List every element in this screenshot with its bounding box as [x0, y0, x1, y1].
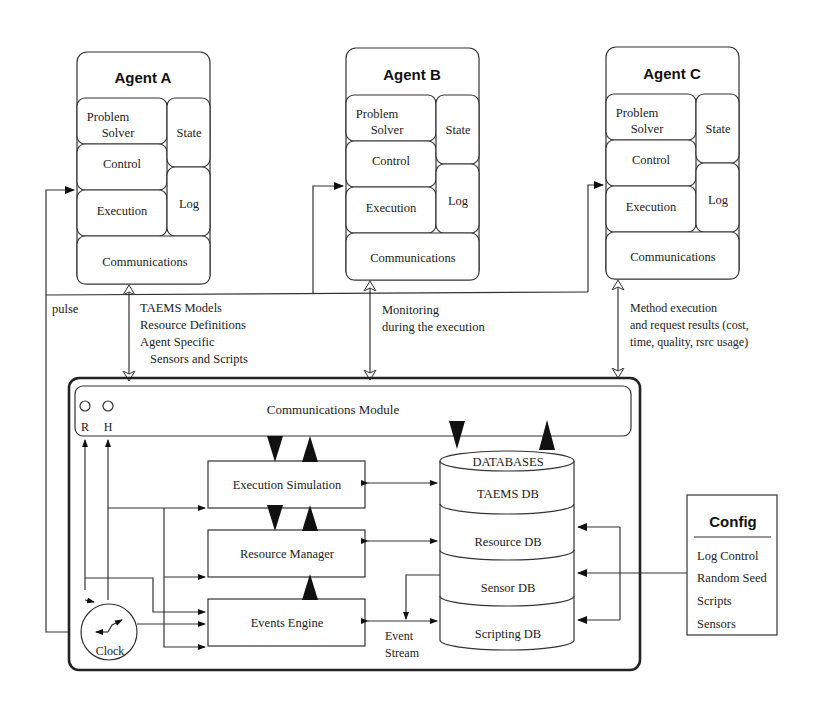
agent-c-control-label: Control [632, 153, 671, 167]
agent-c-problem-solver-label: Problem [616, 106, 659, 120]
agent-c-communications-label: Communications [630, 250, 716, 264]
agent-a-execution-label: Execution [97, 204, 148, 218]
sensor-event-stream-link [406, 575, 440, 619]
agent-c-title: Agent C [643, 65, 701, 82]
agent-a-problem-solver-label-2: Solver [102, 126, 135, 140]
agent-b-link-text: Monitoring during the execution [382, 303, 485, 334]
execution-simulation-label: Execution Simulation [233, 478, 342, 492]
databases-cylinder: DATABASES TAEMS DB Resource DB Sensor DB… [440, 451, 574, 650]
down-arrow-icon [267, 436, 283, 462]
communications-module-label: Communications Module [267, 402, 400, 417]
clock-label: Clock [96, 644, 125, 658]
r-label: R [81, 420, 89, 434]
databases-title: DATABASES [472, 455, 543, 469]
agent-b-communications-label: Communications [370, 251, 456, 265]
pulse-bus-line [46, 292, 588, 295]
pulse-line-agent-b [313, 186, 343, 293]
config-title: Config [709, 513, 756, 530]
agent-b-problem-solver-label: Problem [356, 107, 399, 121]
event-stream-label: Event Stream [385, 629, 420, 660]
agent-b-execution-label: Execution [366, 201, 417, 215]
agent-a-control-label: Control [103, 157, 142, 171]
agent-c-state-label: State [706, 122, 731, 136]
agent-a-link-text: TAEMS Models Resource Definitions Agent … [140, 301, 249, 366]
h-label: H [104, 420, 113, 434]
agent-a-communications-label: Communications [102, 255, 188, 269]
up-arrow-icon [302, 436, 318, 462]
resource-manager-label: Resource Manager [240, 547, 335, 561]
agent-a-problem-solver-label: Problem [87, 110, 130, 124]
agent-c: Agent C Problem Solver Control Execution… [606, 47, 739, 279]
config-item-log-control: Log Control [697, 549, 759, 563]
agent-b-log-label: Log [448, 194, 469, 208]
taems-db-label: TAEMS DB [477, 487, 539, 501]
config-item-random-seed: Random Seed [697, 571, 768, 585]
agent-links: TAEMS Models Resource Definitions Agent … [129, 281, 752, 380]
pulse-line-agent-c [588, 185, 603, 292]
architecture-diagram: Agent A Problem Solver Control Execution… [0, 0, 817, 701]
sensor-db-label: Sensor DB [481, 581, 536, 595]
up-arrow-icon [302, 574, 318, 600]
agent-a-title: Agent A [115, 69, 172, 86]
simulator: Communications Module R H Execution Simu… [69, 378, 640, 670]
pulse-label: pulse [52, 302, 79, 316]
h-port-icon [103, 401, 113, 411]
agent-c-log-label: Log [708, 193, 729, 207]
config-item-scripts: Scripts [697, 594, 732, 608]
agent-c-problem-solver-label-2: Solver [631, 122, 664, 136]
r-port-icon [80, 401, 90, 411]
agent-b: Agent B Problem Solver Control Execution… [346, 48, 479, 280]
agent-a: Agent A Problem Solver Control Execution… [77, 52, 210, 284]
agent-c-link-text: Method execution and request results (co… [630, 301, 752, 349]
agent-a-log-label: Log [179, 197, 200, 211]
agent-a-state-label: State [177, 126, 202, 140]
down-arrow-icon [267, 505, 283, 531]
resource-db-label: Resource DB [475, 535, 542, 549]
r-to-clock [85, 600, 94, 602]
agent-b-title: Agent B [383, 66, 441, 83]
agent-b-control-label: Control [372, 154, 411, 168]
up-arrow-icon [302, 505, 318, 531]
events-engine-label: Events Engine [251, 616, 324, 630]
agent-b-problem-solver-label-2: Solver [371, 123, 404, 137]
config-item-sensors: Sensors [697, 617, 736, 631]
agent-c-execution-label: Execution [626, 200, 677, 214]
agent-b-state-label: State [446, 123, 471, 137]
config-panel: Config Log Control Random Seed Scripts S… [578, 495, 777, 635]
scripting-db-label: Scripting DB [475, 627, 541, 641]
